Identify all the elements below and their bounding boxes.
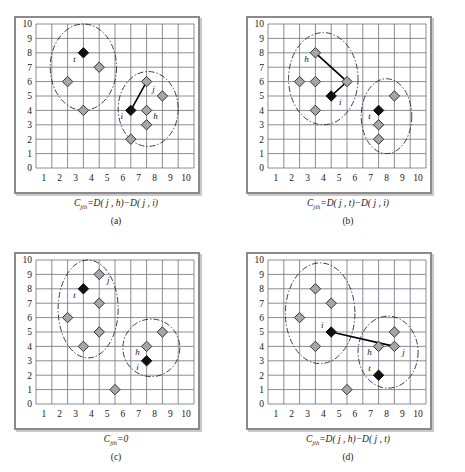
x-tick-2: 2 bbox=[289, 173, 294, 183]
data-point bbox=[342, 384, 352, 394]
x-tick-9: 9 bbox=[168, 173, 173, 183]
point-label-t: t bbox=[368, 111, 371, 121]
x-tick-10: 10 bbox=[413, 409, 423, 419]
y-tick-5: 5 bbox=[259, 91, 264, 101]
panel-letter-c: (c) bbox=[0, 452, 232, 462]
plot-a: 12345678910012345678910tjih bbox=[14, 16, 200, 194]
plot-d: 12345678910012345678910ihjt bbox=[246, 252, 432, 430]
x-tick-2: 2 bbox=[57, 409, 62, 419]
axis-labels-d: 12345678910012345678910 bbox=[255, 255, 424, 419]
x-tick-1: 1 bbox=[42, 409, 47, 419]
data-point bbox=[157, 327, 167, 337]
formula-subscript: jih bbox=[110, 439, 117, 446]
data-point bbox=[78, 105, 88, 115]
data-point bbox=[389, 91, 399, 101]
y-tick-10: 10 bbox=[255, 255, 265, 265]
y-tick-7: 7 bbox=[27, 299, 32, 309]
data-point bbox=[310, 105, 320, 115]
x-tick-6: 6 bbox=[353, 173, 358, 183]
point-label-t: t bbox=[73, 54, 76, 64]
y-tick-0: 0 bbox=[259, 163, 264, 173]
x-tick-10: 10 bbox=[181, 173, 191, 183]
data-point bbox=[373, 120, 383, 130]
point-label-h: h bbox=[367, 347, 372, 357]
y-tick-9: 9 bbox=[259, 34, 264, 44]
x-tick-8: 8 bbox=[152, 409, 157, 419]
x-tick-6: 6 bbox=[121, 173, 126, 183]
data-point bbox=[310, 341, 320, 351]
y-tick-0: 0 bbox=[259, 399, 264, 409]
point-label-i: i bbox=[121, 111, 124, 121]
data-point bbox=[310, 284, 320, 294]
point-label-h: h bbox=[135, 347, 140, 357]
panel-formula-b: Cjih=D( j , t)−D( j , i) bbox=[232, 198, 464, 210]
y-tick-2: 2 bbox=[27, 371, 32, 381]
plot-c: 12345678910012345678910jthi bbox=[14, 252, 200, 430]
panel-formula-d: Cjih=D( j , h)−D( j , t) bbox=[232, 434, 464, 446]
point-label-j: j bbox=[401, 347, 405, 357]
data-point bbox=[310, 76, 320, 86]
x-tick-1: 1 bbox=[42, 173, 47, 183]
x-tick-7: 7 bbox=[368, 173, 373, 183]
panel-letter-b: (b) bbox=[232, 216, 464, 226]
x-tick-2: 2 bbox=[57, 173, 62, 183]
x-tick-6: 6 bbox=[121, 409, 126, 419]
data-point-highlight bbox=[373, 370, 383, 380]
plot-b: 12345678910012345678910hit bbox=[246, 16, 432, 194]
data-point bbox=[94, 62, 104, 72]
x-tick-10: 10 bbox=[413, 173, 423, 183]
point-label-j: j bbox=[106, 275, 110, 285]
y-tick-2: 2 bbox=[259, 371, 264, 381]
point-label-h: h bbox=[153, 111, 158, 121]
data-point bbox=[373, 134, 383, 144]
data-point bbox=[62, 76, 72, 86]
y-tick-6: 6 bbox=[259, 77, 264, 87]
x-tick-4: 4 bbox=[89, 409, 94, 419]
x-tick-5: 5 bbox=[337, 409, 342, 419]
y-tick-2: 2 bbox=[259, 135, 264, 145]
x-tick-3: 3 bbox=[73, 173, 78, 183]
x-tick-8: 8 bbox=[384, 409, 389, 419]
data-point bbox=[389, 327, 399, 337]
data-point bbox=[157, 91, 167, 101]
panel-formula-a: Cjih=D( j , h)−D( j , i) bbox=[0, 198, 232, 210]
y-tick-6: 6 bbox=[27, 313, 32, 323]
data-point bbox=[141, 341, 151, 351]
y-tick-4: 4 bbox=[259, 342, 264, 352]
x-tick-5: 5 bbox=[105, 409, 110, 419]
y-tick-10: 10 bbox=[255, 19, 265, 29]
x-tick-6: 6 bbox=[353, 409, 358, 419]
clusters-d bbox=[285, 263, 418, 388]
formula-body: =D( j , h)−D( j , t) bbox=[319, 434, 390, 444]
cluster-ellipse-2 bbox=[123, 319, 180, 377]
y-tick-4: 4 bbox=[259, 106, 264, 116]
x-tick-9: 9 bbox=[400, 173, 405, 183]
y-tick-5: 5 bbox=[27, 91, 32, 101]
data-point-highlight bbox=[78, 48, 88, 58]
x-tick-1: 1 bbox=[274, 409, 279, 419]
x-tick-3: 3 bbox=[305, 409, 310, 419]
y-tick-8: 8 bbox=[27, 48, 32, 58]
y-tick-7: 7 bbox=[27, 63, 32, 73]
data-point-highlight bbox=[78, 284, 88, 294]
data-point bbox=[141, 120, 151, 130]
data-point bbox=[294, 312, 304, 322]
x-tick-8: 8 bbox=[152, 173, 157, 183]
panel-formula-c: Cjih=0 bbox=[0, 434, 232, 446]
y-tick-3: 3 bbox=[259, 356, 264, 366]
y-tick-3: 3 bbox=[27, 120, 32, 130]
panel-a: 12345678910012345678910tjihCjih=D( j , h… bbox=[0, 0, 232, 236]
formula-body: =D( j , t)−D( j , i) bbox=[320, 198, 389, 208]
clusters-c bbox=[58, 260, 180, 377]
y-tick-3: 3 bbox=[259, 120, 264, 130]
data-point bbox=[94, 327, 104, 337]
cluster-ellipse-1 bbox=[285, 263, 355, 364]
x-tick-4: 4 bbox=[321, 409, 326, 419]
x-tick-2: 2 bbox=[289, 409, 294, 419]
y-tick-3: 3 bbox=[27, 356, 32, 366]
data-point-highlight bbox=[141, 356, 151, 366]
y-tick-10: 10 bbox=[23, 19, 33, 29]
x-tick-10: 10 bbox=[181, 409, 191, 419]
panel-b: 12345678910012345678910hitCjih=D( j , t)… bbox=[232, 0, 464, 236]
x-tick-3: 3 bbox=[73, 409, 78, 419]
